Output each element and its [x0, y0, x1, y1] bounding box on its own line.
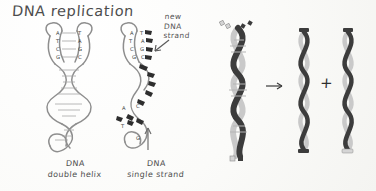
base-right-1: A [78, 38, 82, 44]
caption-double-helix: DNA double helix [39, 158, 111, 180]
caption-left-line1: DNA [40, 158, 111, 169]
arrow-down-left-icon [152, 38, 170, 54]
base-left-2: C [56, 46, 60, 52]
template-base-3: G [132, 54, 136, 60]
illustration-parent-helix [219, 20, 252, 161]
free-base-1: C [136, 103, 140, 109]
template-base-0: A [130, 30, 134, 36]
base-right-3: C [78, 54, 82, 60]
new-strand-annotation: new DNA strand [163, 12, 191, 41]
caption-right-line2: single strand [117, 169, 194, 180]
caption-left-line2: double helix [39, 169, 110, 180]
new-base-1: A [141, 38, 145, 44]
base-left-0: A [56, 30, 60, 36]
new-base-letters-middle: T A G C [139, 30, 145, 60]
template-base-1: T [128, 38, 133, 44]
new-base-0: T [139, 30, 144, 36]
base-right-0: T [77, 30, 82, 36]
caption-single-strand: DNA single strand [117, 158, 195, 180]
free-base-3: G [136, 135, 140, 141]
diagram-middle-single-strand [121, 23, 149, 148]
worksheet-canvas: DNA replication [0, 0, 376, 191]
base-right-2: G [78, 46, 82, 52]
new-base-3: C [141, 54, 145, 60]
free-base-0: A [122, 105, 126, 111]
caption-right-line1: DNA [118, 158, 195, 169]
arrow-right-icon [266, 83, 282, 89]
plus-operator: + [319, 74, 333, 92]
base-left-3: G [56, 54, 60, 60]
new-strand-line1: new [164, 12, 191, 22]
illustration-daughter-helix-1 [298, 28, 309, 153]
template-base-2: C [130, 46, 134, 52]
new-strand-line2: DNA [164, 22, 191, 32]
illustration-daughter-helix-2 [342, 28, 353, 153]
free-base-2: T [120, 123, 125, 129]
new-base-2: G [140, 46, 144, 52]
